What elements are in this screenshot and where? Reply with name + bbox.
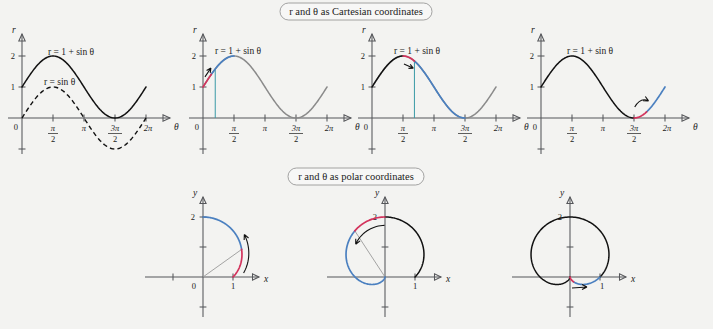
x-ticklabel-3pi-over-2-num: 3π: [291, 123, 301, 133]
y-axis-label: r: [531, 25, 535, 35]
x-ticklabel-3pi-over-2-den: 2: [113, 134, 117, 144]
x-ticklabel-pi: π: [601, 123, 606, 133]
x-ticklabel-2pi: 2π: [494, 123, 503, 133]
x-ticklabel-3pi-over-2-den: 2: [632, 134, 636, 144]
x-axis-label: θ: [524, 122, 529, 132]
x-ticklabel-3pi-over-2-num: 3π: [460, 123, 470, 133]
annotation-cardioid: r = 1 + sin θ: [567, 46, 614, 56]
x-ticklabel-0: 0: [364, 122, 368, 132]
x-ticklabel-3pi-over-2-num: 3π: [629, 123, 639, 133]
origin-label: 0: [192, 281, 196, 291]
polar-cardioid-figure: r and θ as Cartesian coordinates r and θ…: [0, 0, 713, 329]
x-axis-label: θ: [355, 122, 360, 132]
y-axis-label: r: [193, 25, 197, 35]
x-ticklabel-0: 0: [533, 122, 537, 132]
x-ticklabel-3pi-over-2-den: 2: [294, 134, 298, 144]
y-ticklabel-2: 2: [361, 51, 365, 61]
x-ticklabel-pi-over-2-num: π: [570, 123, 575, 133]
y-axis-label: y: [559, 188, 565, 198]
y-ticklabel-1: 1: [361, 82, 365, 92]
x-ticklabel-pi: π: [263, 123, 268, 133]
x-ticklabel-2pi: 2π: [663, 123, 672, 133]
y-ticklabel-2: 2: [192, 51, 196, 61]
x-axis-label: x: [630, 274, 636, 284]
band-label-polar-text: r and θ as polar coordinates: [298, 171, 414, 182]
y-axis-label: r: [12, 25, 16, 35]
x-ticklabel-pi-over-2-num: π: [51, 123, 56, 133]
x-ticklabel-pi-over-2-num: π: [232, 123, 237, 133]
x-axis-label: θ: [693, 122, 698, 132]
x-axis-label: θ: [174, 122, 179, 132]
y-ticklabel-1: 1: [11, 82, 15, 92]
y-ticklabel-2: 2: [11, 51, 15, 61]
x-ticklabel-pi: π: [82, 123, 87, 133]
y-axis-label: y: [192, 188, 198, 198]
x-ticklabel-3pi-over-2-num: 3π: [110, 123, 120, 133]
x-ticklabel-0: 0: [14, 122, 18, 132]
x-ticklabel-pi-over-2-den: 2: [232, 134, 236, 144]
band-label-cartesian-text: r and θ as Cartesian coordinates: [289, 6, 423, 17]
x-ticklabel-pi-over-2-num: π: [401, 123, 406, 133]
annotation-cardioid: r = 1 + sin θ: [48, 47, 95, 57]
band-label-cartesian: r and θ as Cartesian coordinates: [280, 3, 432, 20]
x-ticklabel-2pi: 2π: [144, 123, 153, 133]
x-axis-label: x: [445, 274, 451, 284]
annotation-cardioid: r = 1 + sin θ: [394, 46, 441, 56]
y-ticklabel-2: 2: [530, 51, 534, 61]
x-ticklabel-1: 1: [231, 281, 235, 291]
y-ticklabel-2: 2: [373, 212, 377, 222]
annotation-cardioid: r = 1 + sin θ: [215, 46, 262, 56]
y-ticklabel-2: 2: [558, 212, 562, 222]
x-ticklabel-pi-over-2-den: 2: [401, 134, 405, 144]
y-ticklabel-1: 1: [192, 82, 196, 92]
x-ticklabel-2pi: 2π: [325, 123, 334, 133]
y-ticklabel-1: 1: [530, 82, 534, 92]
band-label-polar: r and θ as polar coordinates: [288, 168, 424, 185]
x-ticklabel-3pi-over-2-den: 2: [463, 134, 467, 144]
x-axis-label: x: [263, 274, 269, 284]
x-ticklabel-1: 1: [413, 281, 417, 291]
annotation-sine: r = sin θ: [44, 77, 76, 87]
y-ticklabel-2: 2: [191, 212, 195, 222]
x-ticklabel-0: 0: [195, 122, 199, 132]
y-axis-label: y: [374, 188, 380, 198]
x-ticklabel-1: 1: [600, 281, 604, 291]
x-ticklabel-pi: π: [432, 123, 437, 133]
x-ticklabel-pi-over-2-den: 2: [570, 134, 574, 144]
y-axis-label: r: [362, 25, 366, 35]
x-ticklabel-pi-over-2-den: 2: [51, 134, 55, 144]
